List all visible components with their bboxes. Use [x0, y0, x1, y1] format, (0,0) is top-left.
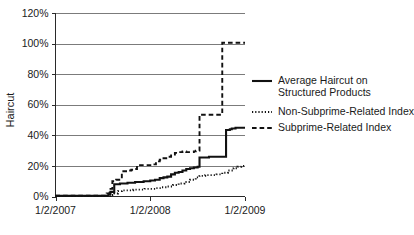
y-axis-tick-labels: 0%20%40%60%80%100%120%	[22, 7, 49, 203]
legend-item-2: Subprime-Related Index	[252, 121, 392, 133]
y-tick-label-120: 120%	[22, 7, 49, 19]
x-tick-label-2: 1/2/2009	[225, 204, 266, 216]
y-tick-label-40: 40%	[27, 129, 48, 141]
y-tick-label-0: 0%	[33, 190, 48, 202]
x-tick-label-0: 1/2/2007	[35, 204, 76, 216]
y-tick-label-100: 100%	[22, 37, 49, 49]
axis-tickmarks	[52, 14, 246, 201]
chart-legend: Average Haircut onStructured ProductsNon…	[252, 74, 414, 133]
haircut-line-chart: 0%20%40%60%80%100%120% 1/2/20071/2/20081…	[0, 0, 414, 235]
series-line-0	[56, 128, 246, 196]
y-tick-label-80: 80%	[27, 68, 48, 80]
chart-container: 0%20%40%60%80%100%120% 1/2/20071/2/20081…	[0, 0, 414, 235]
y-tick-label-60: 60%	[27, 98, 48, 110]
y-tick-label-20: 20%	[27, 160, 48, 172]
legend-label-2: Subprime-Related Index	[278, 121, 392, 133]
data-series	[56, 43, 246, 196]
y-axis-title: Haircut	[4, 93, 16, 128]
series-line-2	[56, 43, 246, 196]
legend-item-0: Average Haircut onStructured Products	[252, 74, 371, 98]
gridlines	[56, 14, 246, 167]
legend-label-1: Non-Subprime-Related Index	[278, 105, 414, 117]
legend-label-0: Average Haircut on	[278, 74, 368, 86]
legend-label-0-line2: Structured Products	[278, 86, 371, 98]
legend-item-1: Non-Subprime-Related Index	[252, 105, 414, 117]
x-axis-tick-labels: 1/2/20071/2/20081/2/2009	[35, 204, 266, 216]
x-tick-label-1: 1/2/2008	[130, 204, 171, 216]
